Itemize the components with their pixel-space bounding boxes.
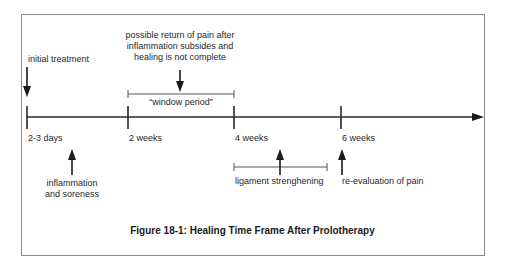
possible-return-line1: possible return of pain after — [125, 30, 234, 41]
initial-treatment-arrow-icon — [23, 67, 31, 97]
possible-return-line3: healing is not complete — [125, 52, 234, 63]
inflammation-arrow-icon — [68, 149, 76, 175]
ligament-strengthening-arrow-icon — [276, 149, 284, 175]
inflammation-line2: and soreness — [45, 189, 99, 200]
inflammation-label: inflammation and soreness — [45, 178, 99, 200]
initial-treatment-label: initial treatment — [28, 54, 89, 65]
possible-return-label: possible return of pain after inflammati… — [125, 30, 234, 63]
tick-label-4-weeks: 4 weeks — [235, 133, 268, 144]
timeline-arrowhead-icon — [472, 113, 484, 121]
ligament-strengthening-label: ligament strenghening — [235, 176, 324, 187]
tick-label-6-weeks: 6 weeks — [342, 133, 375, 144]
re-evaluation-arrow-icon — [338, 149, 346, 175]
figure-caption: Figure 18-1: Healing Time Frame After Pr… — [0, 225, 505, 236]
possible-return-arrow-icon — [176, 70, 184, 92]
possible-return-line2: inflammation subsides and — [125, 41, 234, 52]
window-period-label: “window period” — [149, 97, 213, 108]
tick-label-2-weeks: 2 weeks — [129, 133, 162, 144]
re-evaluation-label: re-evaluation of pain — [342, 176, 424, 187]
timeline-axis — [27, 113, 484, 121]
tick-label-2-3-days: 2-3 days — [28, 133, 63, 144]
inflammation-line1: inflammation — [45, 178, 99, 189]
